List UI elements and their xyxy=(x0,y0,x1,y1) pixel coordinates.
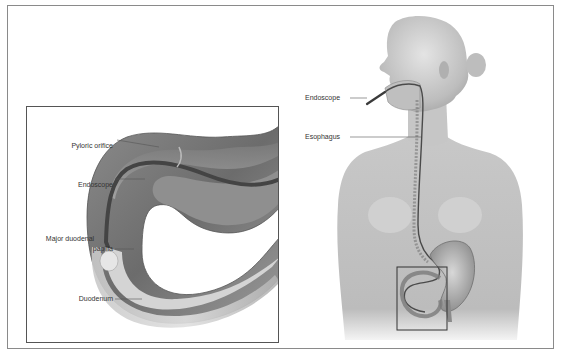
label-major-duodenal-papilla-line1: Major duodenal xyxy=(27,235,113,243)
inset-panel: Pyloric orifice Endoscope Major duodenal… xyxy=(26,106,279,343)
torso-shape xyxy=(337,132,523,340)
label-endoscope-body: Endoscope xyxy=(305,94,340,102)
label-endoscope-inset: Endoscope xyxy=(43,181,113,189)
label-esophagus: Esophagus xyxy=(305,133,340,141)
label-major-duodenal-papilla-line2: papilla xyxy=(43,245,113,253)
papilla-shape xyxy=(100,251,118,271)
label-pyloric-orifice: Pyloric orifice xyxy=(43,142,113,150)
endoscope-tube-external xyxy=(367,92,385,104)
label-duodenum: Duodenum xyxy=(43,295,113,303)
